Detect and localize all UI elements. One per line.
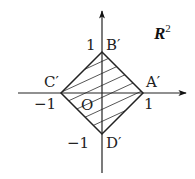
vertex-label-a: A′ xyxy=(145,73,161,91)
vertex-label-c: C′ xyxy=(44,73,59,91)
tick-y-pos: 1 xyxy=(86,36,96,54)
tick-x-pos: 1 xyxy=(144,95,154,113)
tick-x-neg: −1 xyxy=(34,95,56,113)
origin-label: O xyxy=(81,96,93,114)
tick-y-neg: −1 xyxy=(67,134,89,152)
space-label: R2 xyxy=(153,22,171,43)
vertex-label-d: D′ xyxy=(106,134,122,152)
vertex-label-b: B′ xyxy=(106,36,121,54)
coordinate-diagram: B′ 1 A′ 1 C′ −1 O −1 D′ R2 xyxy=(0,0,195,179)
